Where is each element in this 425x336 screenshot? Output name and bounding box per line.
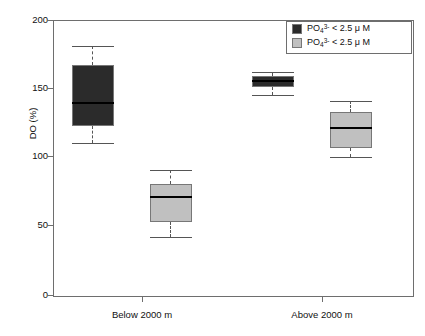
median-line [252, 80, 294, 82]
box-rect [330, 112, 372, 148]
y-tick-0: 0 [6, 290, 48, 300]
y-tick-mark [47, 88, 53, 89]
y-tick-mark [47, 295, 53, 296]
y-tick-label: 50 [10, 220, 48, 230]
legend-swatch-dark [292, 24, 302, 34]
y-tick-label: 100 [10, 151, 48, 161]
x-tick-mark-below [142, 296, 143, 302]
y-tick-100: 100 [6, 151, 48, 161]
x-tick-label-below: Below 2000 m [92, 310, 192, 320]
whisker-cap-high [252, 72, 294, 73]
whisker-line-high [170, 170, 171, 184]
y-tick-50: 50 [6, 220, 48, 230]
whisker-cap-low [72, 143, 114, 144]
box-rect [150, 184, 192, 222]
plot-frame [53, 20, 414, 297]
box-plot-chart: DO (%) 200 150 100 50 0 Below 2000 m Abo… [0, 0, 425, 336]
whisker-line-low [350, 148, 351, 157]
whisker-line-low [170, 222, 171, 237]
whisker-cap-low [150, 237, 192, 238]
y-tick-mark [47, 156, 53, 157]
y-tick-mark [47, 225, 53, 226]
legend-entry-1: PO43- < 2.5 μ M [292, 24, 370, 35]
whisker-line-low [92, 126, 93, 143]
whisker-cap-low [330, 157, 372, 158]
whisker-cap-high [330, 101, 372, 102]
legend: PO43- < 2.5 μ M PO43- < 2.5 μ M [286, 21, 412, 54]
y-tick-mark [47, 20, 53, 21]
legend-entry-2: PO43- < 2.5 μ M [292, 38, 370, 49]
whisker-line-low [272, 87, 273, 95]
box-rect [72, 65, 114, 126]
whisker-cap-low [252, 95, 294, 96]
y-tick-200: 200 [6, 15, 48, 25]
y-tick-label: 150 [10, 83, 48, 93]
legend-label-1: PO43- < 2.5 μ M [307, 24, 370, 35]
median-line [330, 127, 372, 129]
legend-swatch-light [292, 38, 302, 48]
y-tick-label: 0 [10, 290, 48, 300]
y-tick-label: 200 [10, 15, 48, 25]
y-axis-label: DO (%) [27, 94, 38, 154]
y-tick-150: 150 [6, 83, 48, 93]
legend-label-2: PO43- < 2.5 μ M [307, 38, 370, 49]
whisker-line-high [92, 46, 93, 65]
median-line [72, 102, 114, 104]
x-tick-mark-above [322, 296, 323, 302]
x-tick-label-above: Above 2000 m [272, 310, 372, 320]
whisker-cap-high [72, 46, 114, 47]
whisker-line-high [350, 101, 351, 112]
whisker-cap-high [150, 170, 192, 171]
median-line [150, 196, 192, 198]
